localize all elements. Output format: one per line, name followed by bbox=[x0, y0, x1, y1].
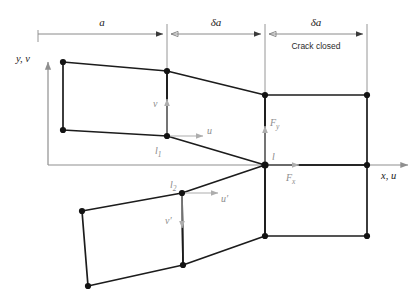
node-dot bbox=[364, 92, 370, 98]
x-axis-label: x, u bbox=[380, 170, 396, 181]
node-dot bbox=[164, 133, 170, 139]
displacement-label-u-prime: u′ bbox=[221, 193, 229, 204]
node-dot bbox=[262, 233, 268, 239]
lower-displacement-arrows: u′ v′ bbox=[165, 193, 229, 228]
node-dot bbox=[180, 262, 186, 268]
node-labels: l1 l2 l bbox=[155, 145, 275, 193]
dimension-label-delta-a-2: δa bbox=[311, 16, 322, 28]
displacement-label-v-prime: v′ bbox=[165, 215, 172, 226]
force-label-fx: Fx bbox=[285, 172, 296, 186]
crack-closure-figure: a δa δa Crack closed y, v x, u bbox=[0, 0, 420, 301]
crack-tip-forces: Fy Fx bbox=[265, 117, 299, 186]
force-label-fy: Fy bbox=[269, 117, 280, 131]
displacement-label-v: v bbox=[153, 98, 158, 109]
dimension-chain: a δa δa Crack closed bbox=[38, 16, 367, 96]
node-label-l2: l2 bbox=[170, 179, 177, 193]
lower-element-tip bbox=[182, 165, 265, 265]
crack-closed-note: Crack closed bbox=[291, 41, 340, 51]
node-dot bbox=[262, 92, 268, 98]
upper-crack-mesh bbox=[63, 62, 265, 165]
upper-displacement-arrows: v u bbox=[153, 98, 212, 136]
node-dot bbox=[164, 68, 170, 74]
node-dot bbox=[60, 59, 66, 65]
node-dot bbox=[364, 162, 370, 168]
node-dot bbox=[60, 127, 66, 133]
node-dot bbox=[179, 190, 185, 196]
y-axis-label: y, v bbox=[15, 53, 30, 64]
coordinate-axes: y, v x, u bbox=[15, 53, 408, 181]
upper-element-left bbox=[63, 62, 167, 136]
crack-closure-diagram: a δa δa Crack closed y, v x, u bbox=[0, 0, 420, 301]
node-dot bbox=[79, 208, 85, 214]
closed-element-lower bbox=[265, 165, 367, 236]
upper-element-tip bbox=[167, 71, 265, 165]
dimension-label-delta-a-1: δa bbox=[211, 16, 222, 28]
node-label-l: l bbox=[272, 151, 275, 162]
displacement-label-u: u bbox=[207, 125, 212, 136]
node-dot bbox=[85, 283, 91, 289]
node-label-l1: l1 bbox=[155, 145, 162, 159]
closed-element-upper bbox=[265, 95, 367, 165]
dimension-label-a: a bbox=[99, 16, 105, 28]
lower-element-left bbox=[82, 193, 183, 286]
node-dot bbox=[364, 233, 370, 239]
node-dot-crack-tip bbox=[261, 161, 268, 168]
